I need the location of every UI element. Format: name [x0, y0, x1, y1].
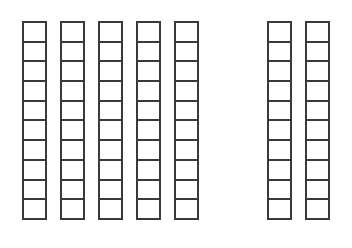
unit-cell: [98, 119, 123, 141]
unit-cell: [22, 119, 47, 141]
unit-cell: [98, 179, 123, 201]
unit-cell: [136, 119, 161, 141]
unit-cell: [22, 159, 47, 181]
unit-cell: [305, 41, 330, 63]
unit-cell: [136, 80, 161, 102]
unit-cell: [267, 41, 292, 63]
unit-cell: [305, 159, 330, 181]
unit-cell: [22, 139, 47, 161]
unit-cell: [60, 179, 85, 201]
unit-cell: [22, 21, 47, 43]
unit-cell: [174, 41, 199, 63]
unit-cell: [174, 60, 199, 82]
unit-cell: [98, 41, 123, 63]
unit-cell: [305, 119, 330, 141]
unit-cell: [267, 179, 292, 201]
unit-cell: [174, 119, 199, 141]
unit-cell: [136, 198, 161, 220]
rod-group-right: [267, 21, 330, 220]
unit-cell: [267, 21, 292, 43]
unit-cell: [267, 198, 292, 220]
unit-cell: [136, 179, 161, 201]
unit-cell: [60, 41, 85, 63]
rod-6[interactable]: [267, 21, 292, 220]
rod-5[interactable]: [174, 21, 199, 220]
unit-cell: [98, 100, 123, 122]
unit-cell: [174, 21, 199, 43]
unit-cell: [60, 119, 85, 141]
unit-cell: [305, 139, 330, 161]
unit-cell: [22, 179, 47, 201]
unit-cell: [305, 100, 330, 122]
diagram-canvas: [0, 0, 352, 248]
unit-cell: [22, 60, 47, 82]
unit-cell: [174, 139, 199, 161]
unit-cell: [22, 80, 47, 102]
unit-cell: [22, 198, 47, 220]
unit-cell: [136, 60, 161, 82]
unit-cell: [267, 159, 292, 181]
unit-cell: [174, 198, 199, 220]
rod-group-left: [22, 21, 199, 220]
unit-cell: [60, 198, 85, 220]
unit-cell: [305, 198, 330, 220]
unit-cell: [98, 139, 123, 161]
unit-cell: [60, 139, 85, 161]
unit-cell: [60, 80, 85, 102]
unit-cell: [136, 139, 161, 161]
unit-cell: [174, 80, 199, 102]
unit-cell: [22, 41, 47, 63]
unit-cell: [267, 80, 292, 102]
unit-cell: [305, 179, 330, 201]
rod-2[interactable]: [60, 21, 85, 220]
unit-cell: [98, 60, 123, 82]
unit-cell: [98, 21, 123, 43]
unit-cell: [174, 100, 199, 122]
unit-cell: [174, 179, 199, 201]
unit-cell: [136, 100, 161, 122]
unit-cell: [98, 198, 123, 220]
unit-cell: [305, 21, 330, 43]
rod-groups-container: [0, 0, 352, 248]
unit-cell: [305, 80, 330, 102]
unit-cell: [22, 100, 47, 122]
rod-1[interactable]: [22, 21, 47, 220]
unit-cell: [267, 139, 292, 161]
unit-cell: [136, 159, 161, 181]
unit-cell: [305, 60, 330, 82]
unit-cell: [267, 100, 292, 122]
unit-cell: [136, 21, 161, 43]
unit-cell: [98, 159, 123, 181]
rod-4[interactable]: [136, 21, 161, 220]
unit-cell: [60, 21, 85, 43]
unit-cell: [136, 41, 161, 63]
unit-cell: [98, 80, 123, 102]
rod-3[interactable]: [98, 21, 123, 220]
rod-7[interactable]: [305, 21, 330, 220]
unit-cell: [267, 119, 292, 141]
unit-cell: [60, 60, 85, 82]
unit-cell: [267, 60, 292, 82]
unit-cell: [60, 100, 85, 122]
unit-cell: [174, 159, 199, 181]
unit-cell: [60, 159, 85, 181]
